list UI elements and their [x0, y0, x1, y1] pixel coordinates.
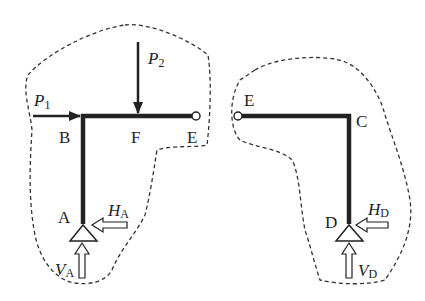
label-HD: HD: [367, 200, 389, 220]
frame-diagram: P1 P2 B F E A HA VA E C D HD VD: [0, 0, 425, 301]
reaction-HD-arrow-icon: [356, 218, 388, 232]
label-VD: VD: [358, 261, 377, 281]
right-free-body: E C D HD VD: [232, 57, 411, 283]
label-P2: P2: [147, 49, 164, 70]
reaction-VA-arrow-icon: [75, 243, 89, 278]
label-node-E-right: E: [244, 91, 254, 110]
label-P1: P1: [33, 91, 50, 112]
pin-support-A-icon: [70, 225, 97, 241]
label-node-A: A: [58, 208, 71, 227]
label-HA: HA: [107, 201, 129, 221]
left-dashed-boundary: [26, 25, 210, 284]
label-node-C: C: [356, 112, 367, 131]
left-free-body: P1 P2 B F E A HA VA: [26, 25, 210, 284]
right-dashed-boundary: [232, 57, 411, 283]
reaction-VD-arrow-icon: [342, 243, 356, 278]
hinge-E-left-icon: [192, 112, 200, 120]
label-node-B: B: [59, 128, 70, 147]
hinge-E-right-icon: [234, 112, 242, 120]
label-node-F: F: [131, 128, 140, 147]
label-VA: VA: [55, 260, 74, 280]
label-node-E-left: E: [187, 128, 197, 147]
label-node-D: D: [325, 213, 337, 232]
